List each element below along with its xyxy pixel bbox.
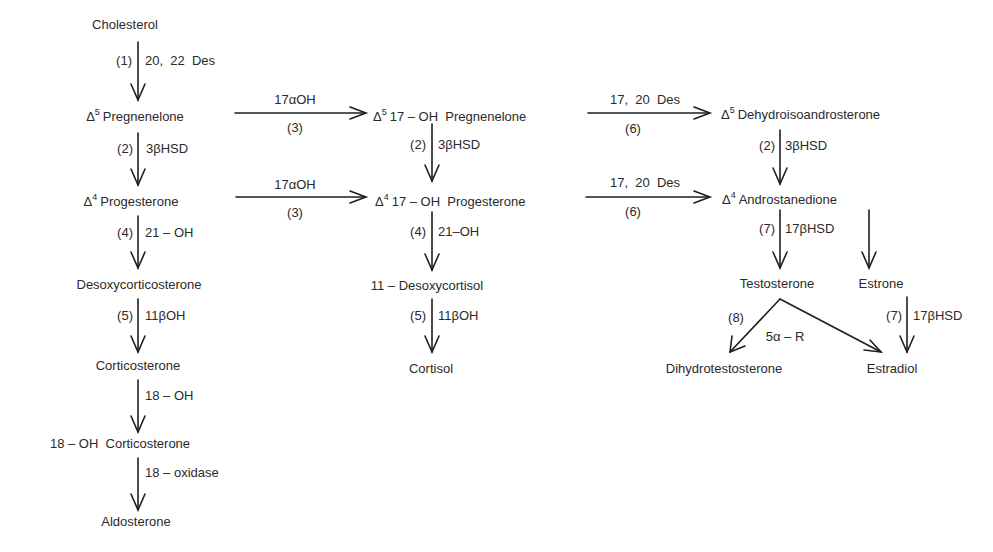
enzyme-3bhsd-col3: 3βHSD [785,138,827,154]
compound-androstanedione: Δ4Androstanedione [722,187,837,208]
arrow-17oh-prog-to-desoxycortisol [425,212,439,270]
arrow-estrone-to-estradiol [900,297,914,352]
enzyme-21-oh: 21 – OH [145,225,193,241]
delta-symbol: Δ [86,109,95,124]
step-4-col2: (4) [410,224,426,240]
enzyme-17bhsd-testosterone: 17βHSD [785,221,834,237]
delta-symbol: Δ [375,194,384,209]
step-5: (5) [117,308,133,324]
enzyme-11boh: 11βOH [145,308,185,324]
enzyme-21oh-col2: 21–OH [438,224,479,240]
delta-symbol: Δ [373,109,382,124]
step-8: (8) [728,310,744,326]
enzyme-18-oxidase: 18 – oxidase [145,465,219,481]
enzyme-11boh-col2: 11βOH [438,308,478,324]
enzyme-20-22-des: 20, 22 Des [145,53,215,69]
enzyme-17-20-des-top: 17, 20 Des [610,92,680,108]
step-7-estradiol: (7) [886,308,902,324]
step-6-bottom: (6) [625,204,641,220]
compound-17oh-progesterone: Δ417 – OH Progesterone [375,189,525,210]
arrow-17oh-prog-to-androstanedione [586,191,710,203]
step-7-testosterone: (7) [759,221,775,237]
delta-symbol: Δ [722,192,731,207]
compound-dehydroisoandrosterone: Δ5Dehydroisoandrosterone [721,102,880,123]
enzyme-17aoh-top: 17αOH [274,92,315,108]
step-5-col2: (5) [410,308,426,324]
compound-dihydrotestosterone: Dihydrotestosterone [666,361,782,377]
arrow-desoxycorticosterone-to-corticosterone [131,299,145,352]
arrow-cholesterol-to-pregnenelone [131,42,145,100]
arrow-17oh-preg-to-17oh-prog [425,124,439,181]
arrow-desoxycortisol-to-cortisol [425,299,439,352]
step-2-col2: (2) [410,137,426,153]
step-6-top: (6) [625,121,641,137]
step-4: (4) [117,225,133,241]
compound-estrone: Estrone [859,276,904,292]
compound-18oh-corticosterone: 18 – OH Corticosterone [50,436,190,452]
compound-estradiol: Estradiol [867,361,918,377]
delta-symbol: Δ [84,194,93,209]
enzyme-17-20-des-bottom: 17, 20 Des [610,175,680,191]
compound-progesterone: Δ4Progesterone [84,189,179,210]
enzyme-17aoh-bottom: 17αOH [274,177,315,193]
enzyme-18-oh: 18 – OH [145,388,193,404]
arrow-corticosterone-to-18oh [131,380,145,432]
step-1: (1) [116,53,132,69]
compound-17oh-pregnenelone: Δ517 – OH Pregnenelone [373,104,526,125]
compound-cortisol: Cortisol [409,361,453,377]
arrow-pregnenelone-to-17oh-pregnenelone [235,107,366,119]
enzyme-17bhsd-estradiol: 17βHSD [913,308,962,324]
step-2-col3: (2) [759,138,775,154]
compound-corticosterone: Corticosterone [96,358,181,374]
arrow-pregnenelone-to-progesterone [131,133,145,185]
delta-symbol: Δ [721,107,730,122]
step-2: (2) [117,141,133,157]
compound-testosterone: Testosterone [740,276,814,292]
compound-cholesterol: Cholesterol [92,17,158,33]
arrow-androstanedione-to-testosterone [773,210,787,268]
enzyme-3bhsd: 3βHSD [146,141,188,157]
compound-aldosterone: Aldosterone [101,514,170,530]
arrow-androstanedione-to-estrone [862,210,876,268]
compound-11-desoxycortisol: 11 – Desoxycortisol [371,278,483,294]
compound-desoxycorticosterone: Desoxycorticosterone [77,277,202,293]
compound-pregnenelone: Δ5Pregnenelone [86,104,184,125]
enzyme-5a-reductase: 5α – R [766,329,805,345]
steroid-pathway-diagram: Cholesterol Δ5Pregnenelone Δ4Progesteron… [0,0,993,552]
arrow-18oh-to-aldosterone [131,458,145,510]
step-3-bottom: (3) [287,205,303,221]
arrow-progesterone-to-desoxycorticosterone [131,216,145,268]
step-3-top: (3) [287,120,303,136]
arrow-17oh-preg-to-dhea [588,107,710,119]
enzyme-3bhsd-col2: 3βHSD [438,137,480,153]
